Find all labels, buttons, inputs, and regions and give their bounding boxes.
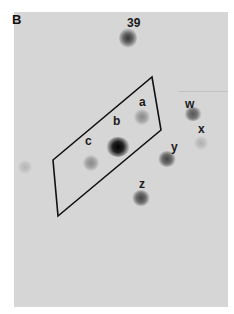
- label-b: b: [113, 114, 120, 128]
- label-w: w: [185, 97, 194, 111]
- label-a: a: [139, 95, 146, 109]
- label-y: y: [171, 140, 178, 154]
- label-z: z: [139, 177, 145, 191]
- parallelogram-outline: [0, 0, 234, 314]
- label-c: c: [85, 134, 92, 148]
- label-x: x: [198, 122, 205, 136]
- label-39: 39: [127, 16, 140, 30]
